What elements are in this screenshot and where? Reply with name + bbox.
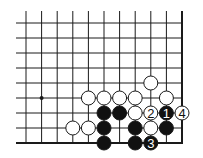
move-number-label: 4 (178, 106, 185, 121)
black-stone (97, 136, 111, 150)
black-stone-icon (159, 121, 173, 135)
black-stone (128, 121, 142, 135)
black-stone-move-1: 1 (159, 106, 173, 121)
white-stone-icon (128, 106, 142, 120)
white-stone-icon (97, 91, 111, 105)
black-stone (97, 106, 111, 120)
black-stone-move-3: 3 (144, 136, 158, 151)
star-points (40, 96, 44, 100)
white-stone (128, 106, 142, 120)
white-stone-icon (81, 91, 95, 105)
move-number-label: 3 (147, 136, 154, 151)
white-stone (113, 91, 127, 105)
white-stone (66, 121, 80, 135)
black-stone-icon (97, 106, 111, 120)
white-stone-icon (144, 76, 158, 90)
white-stone (81, 121, 95, 135)
black-stone-icon (97, 121, 111, 135)
move-number-label: 2 (147, 106, 154, 121)
black-stone-icon (97, 136, 111, 150)
black-stone-icon (113, 106, 127, 120)
white-stone (128, 91, 142, 105)
star-point-icon (40, 96, 44, 100)
white-stone (97, 91, 111, 105)
white-stone-icon (81, 121, 95, 135)
go-board: 2143 (0, 0, 203, 158)
white-stone-icon (66, 121, 80, 135)
black-stone (97, 121, 111, 135)
black-stone-icon (128, 136, 142, 150)
white-stone (144, 76, 158, 90)
black-stone-icon (128, 121, 142, 135)
white-stone (144, 121, 158, 135)
white-stone-icon (159, 91, 173, 105)
white-stone-icon (128, 91, 142, 105)
move-number-label: 1 (163, 106, 170, 121)
white-stone-move-4: 4 (175, 106, 189, 121)
black-stone (128, 136, 142, 150)
white-stone-icon (113, 91, 127, 105)
black-stone (113, 106, 127, 120)
white-stone-move-2: 2 (144, 106, 158, 121)
black-stone (159, 121, 173, 135)
white-stone (159, 91, 173, 105)
white-stone-icon (144, 121, 158, 135)
white-stone (81, 91, 95, 105)
